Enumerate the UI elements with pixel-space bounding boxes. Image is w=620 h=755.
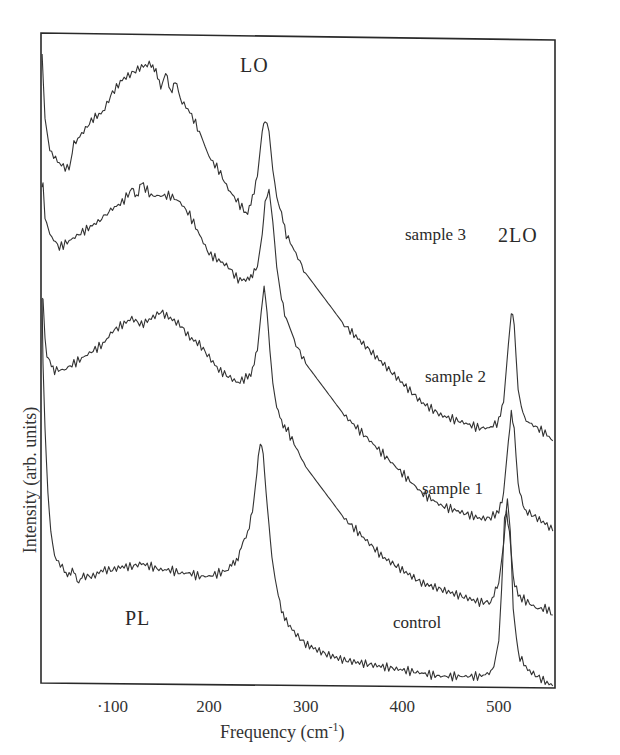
x-tick-label: ·100 <box>97 697 128 716</box>
x-tick-label: 300 <box>293 697 319 716</box>
x-axis-ticks: ·100200300400500 <box>97 697 512 716</box>
x-tick-label: 400 <box>389 697 415 716</box>
2lo-peak-label: 2LO <box>498 224 538 246</box>
sample-2-label: sample 2 <box>425 367 486 386</box>
x-tick-label: 200 <box>196 697 222 716</box>
y-axis-title: Intensity (arb. units) <box>20 407 41 553</box>
plot-frame <box>41 33 555 688</box>
pl-label: PL <box>125 607 150 629</box>
raman-spectra-chart: ·100200300400500 Frequency (cm-1) Intens… <box>0 0 620 755</box>
x-axis-title: Frequency (cm-1) <box>220 720 344 743</box>
sample-3-label: sample 3 <box>405 225 466 244</box>
control-label: control <box>393 613 441 632</box>
x-tick-label: 500 <box>486 697 512 716</box>
lo-peak-label: LO <box>240 54 269 76</box>
sample-1-label: sample 1 <box>422 479 483 498</box>
